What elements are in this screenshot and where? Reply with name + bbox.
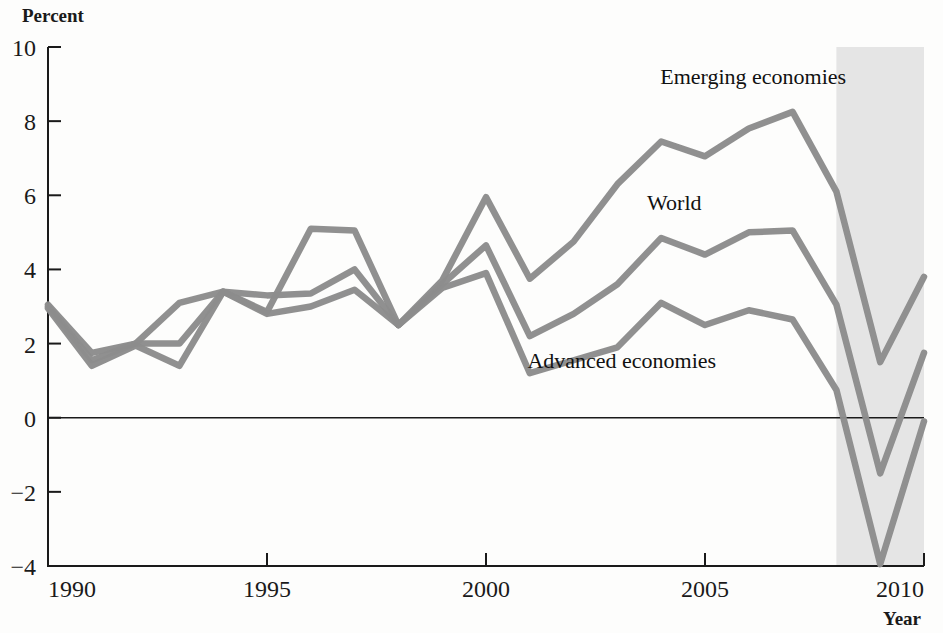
- x-tick-label: 1990: [48, 576, 96, 602]
- y-tick-label: 4: [24, 257, 36, 283]
- series-label: Emerging economies: [660, 64, 846, 89]
- y-axis-title: Percent: [22, 5, 85, 26]
- x-tick-label: 2005: [681, 576, 729, 602]
- x-tick-label: 2000: [462, 576, 510, 602]
- y-tick-label: 6: [24, 183, 36, 209]
- y-tick-label: 0: [24, 406, 36, 432]
- chart-series-lines: [48, 112, 924, 564]
- series-line: [48, 231, 924, 474]
- y-tick-label: −4: [10, 554, 36, 580]
- chart-page: 1086420−2−4 19901995200020052010 Emergin…: [0, 0, 943, 633]
- y-tick-label: 10: [12, 35, 36, 61]
- y-tick-label: 8: [24, 109, 36, 135]
- x-tick-label: 2010: [876, 576, 924, 602]
- x-tick-label: 1995: [243, 576, 291, 602]
- y-axis-tick-labels: 1086420−2−4: [10, 35, 36, 580]
- y-tick-label: 2: [24, 332, 36, 358]
- x-axis-title: Year: [883, 608, 922, 629]
- series-label: Advanced economies: [527, 348, 716, 373]
- series-line: [48, 273, 924, 564]
- x-axis-tick-labels: 19901995200020052010: [48, 576, 924, 602]
- y-tick-label: −2: [10, 480, 36, 506]
- series-label: World: [647, 190, 701, 215]
- line-chart: 1086420−2−4 19901995200020052010 Emergin…: [0, 0, 943, 633]
